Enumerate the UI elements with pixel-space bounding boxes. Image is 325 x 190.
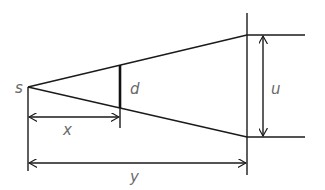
label-d: d (130, 80, 140, 98)
label-s: s (15, 79, 23, 97)
similar-triangles-diagram: s d u x y (0, 0, 325, 190)
label-u: u (271, 80, 281, 98)
label-y: y (129, 168, 140, 186)
label-x: x (62, 121, 72, 139)
